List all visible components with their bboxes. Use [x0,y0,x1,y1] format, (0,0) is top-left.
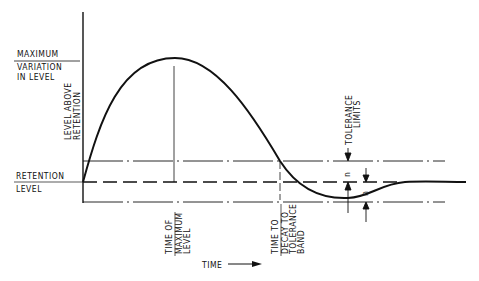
retention-label-2: LEVEL [16,184,42,194]
level-variation-diagram: MAXIMUM VARIATION IN LEVEL LEVEL ABOVE R… [0,0,479,281]
retention-label-1: RETENTION [16,171,65,181]
tolerance-label-2: LIMITS [352,100,362,128]
tolerance-limit-arrows [345,148,369,222]
time-of-max-label-3: LEVEL [182,228,192,254]
max-variation-label-3: IN LEVEL [17,72,55,82]
max-variation-label-1: MAXIMUM [17,49,59,59]
decay-label-4: BAND [296,230,306,254]
time-arrow-head-icon [252,261,262,267]
n-upper-label: n [342,172,352,177]
n-lower-label: n [360,191,370,196]
max-variation-label-2: VARIATION [17,62,62,72]
response-curve [83,58,466,198]
y-axis-label-2: RETENTION [72,91,82,140]
time-axis-label: TIME [201,260,222,270]
time-of-max-label-1: TIME OF [164,219,174,255]
decay-label-1: TIME TO [270,219,280,255]
